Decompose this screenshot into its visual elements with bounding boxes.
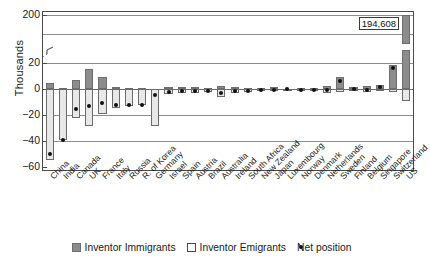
net-position-dot[interactable]: [114, 103, 118, 107]
legend-swatch-icon: [72, 243, 81, 252]
bar-inventor-emigrants[interactable]: [72, 89, 80, 118]
legend-item[interactable]: Inventor Emigrants: [187, 242, 286, 253]
y-tick-neg60: −60: [4, 161, 40, 171]
net-position-dot[interactable]: [48, 152, 52, 156]
bar-group[interactable]: [56, 12, 69, 170]
net-position-dot[interactable]: [246, 89, 250, 93]
bar-inventor-emigrants[interactable]: [336, 89, 344, 92]
bar-group[interactable]: [188, 12, 201, 170]
net-position-dot[interactable]: [259, 88, 263, 92]
bar-inventor-emigrants[interactable]: [376, 89, 384, 91]
bar-group[interactable]: [254, 12, 267, 170]
bar-group[interactable]: [202, 12, 215, 170]
bar-inventor-immigrants[interactable]: [85, 69, 93, 89]
legend-item-label: Inventor Immigrants: [85, 242, 176, 253]
bar-group[interactable]: [387, 12, 400, 170]
net-position-dot-icon: [299, 245, 303, 249]
bar-inventor-immigrants[interactable]: [72, 80, 80, 89]
bar-group[interactable]: [122, 12, 135, 170]
bar-inventor-immigrants[interactable]: [98, 77, 106, 89]
bar-inventor-immigrants[interactable]: [402, 50, 410, 89]
y-tick-0: 0: [4, 83, 40, 93]
y-axis-tick-labels: 200200−20−40−60: [0, 0, 40, 180]
bar-group[interactable]: [373, 12, 386, 170]
chart-legend: Inventor ImmigrantsInventor EmigrantsNet…: [0, 236, 423, 258]
bar-group[interactable]: [175, 12, 188, 170]
net-position-dot[interactable]: [74, 107, 78, 111]
axis-break-icon: [42, 46, 54, 62]
bar-group[interactable]: [241, 12, 254, 170]
legend-item[interactable]: Net position: [297, 242, 351, 253]
net-position-dot[interactable]: [193, 89, 197, 93]
bar-group[interactable]: [109, 12, 122, 170]
y-tick-20: 20: [4, 57, 40, 67]
net-position-dot[interactable]: [233, 89, 237, 93]
bar-group[interactable]: [149, 12, 162, 170]
net-position-dot[interactable]: [153, 93, 157, 97]
bar-group[interactable]: [334, 12, 347, 170]
x-axis-tick-labels: ChinaIndiaCanadaUKFranceItalyRussiaR. of…: [42, 172, 414, 234]
data-label-callout: 194,608: [359, 17, 399, 30]
net-position-dot[interactable]: [378, 85, 382, 89]
net-position-dot[interactable]: [312, 88, 316, 92]
bar-inventor-immigrants-above-break[interactable]: [402, 15, 410, 44]
net-position-dot[interactable]: [391, 66, 395, 70]
y-tick-neg40: −40: [4, 135, 40, 145]
net-position-dot[interactable]: [299, 88, 303, 92]
net-position-dot[interactable]: [206, 89, 210, 93]
bar-group[interactable]: [136, 12, 149, 170]
y-tick-neg20: −20: [4, 109, 40, 119]
bar-group[interactable]: [83, 12, 96, 170]
bar-inventor-emigrants[interactable]: [46, 89, 54, 160]
net-position-dot[interactable]: [61, 138, 65, 142]
legend-swatch-icon: [187, 243, 196, 252]
bar-inventor-emigrants[interactable]: [59, 89, 67, 140]
bar-group[interactable]: [43, 12, 56, 170]
net-position-dot[interactable]: [127, 103, 131, 107]
net-position-dot[interactable]: [272, 88, 276, 92]
y-tick-200: 200: [4, 9, 40, 19]
net-position-dot[interactable]: [167, 90, 171, 94]
net-position-dot[interactable]: [352, 87, 356, 91]
legend-item-label: Net position: [297, 242, 351, 253]
bar-inventor-emigrants[interactable]: [402, 89, 410, 101]
bar-group[interactable]: [69, 12, 82, 170]
bar-inventor-emigrants[interactable]: [389, 89, 397, 92]
legend-item[interactable]: Inventor Immigrants: [72, 242, 176, 253]
net-position-dot[interactable]: [140, 103, 144, 107]
net-position-dot[interactable]: [338, 79, 342, 83]
net-position-dot[interactable]: [365, 88, 369, 92]
bar-group[interactable]: [228, 12, 241, 170]
bar-group[interactable]: [215, 12, 228, 170]
legend-item-label: Inventor Emigrants: [200, 242, 286, 253]
bar-group[interactable]: [96, 12, 109, 170]
